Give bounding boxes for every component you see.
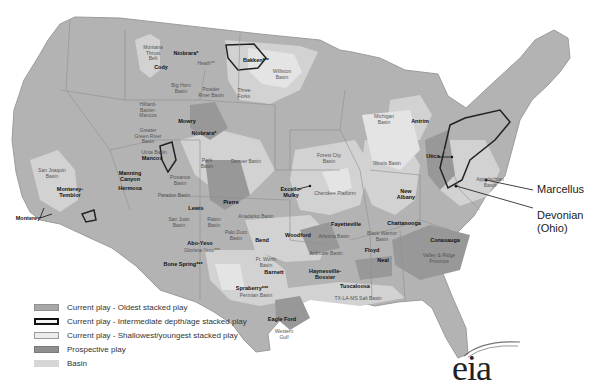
- legend-label: Current play - Intermediate depth/age st…: [67, 317, 247, 326]
- legend-label: Current play - Oldest stacked play: [67, 303, 188, 312]
- map-label: Permian Basin: [240, 293, 273, 299]
- map-label: Eagle Ford: [268, 317, 296, 323]
- map-label: Arkoma Basin: [318, 234, 349, 240]
- map-label: Powder River Basin: [198, 87, 224, 98]
- map-label: Utica: [426, 154, 439, 160]
- map-label: Raton Basin: [207, 217, 220, 228]
- map-label: Monterey: [16, 216, 40, 222]
- map-label: Cherokee Platform: [314, 191, 356, 197]
- map-label: Bone Spring***: [163, 262, 202, 268]
- map-label: Three Forks: [237, 88, 250, 99]
- map-label: Woodford: [285, 233, 311, 239]
- map-label: San Juan Basin: [168, 217, 189, 228]
- legend-item-oldest: Current play - Oldest stacked play: [34, 300, 247, 314]
- map-label: Illinois Basin: [373, 161, 401, 167]
- map-label: TX-LA-MS Salt Basin: [334, 296, 381, 302]
- legend-item-prospective: Prospective play: [34, 342, 247, 356]
- map-label: Abo-Yeso: [187, 241, 212, 247]
- map-label: Neal: [377, 258, 389, 264]
- legend-swatch: [34, 318, 59, 325]
- legend-item-intermediate: Current play - Intermediate depth/age st…: [34, 314, 247, 328]
- map-label: Hermosa: [118, 186, 142, 192]
- map-label: Mowry: [178, 119, 195, 125]
- legend-label: Current play - Shallowest/youngest stack…: [67, 331, 238, 340]
- map-label: Niobrara*: [174, 51, 199, 57]
- map-label: Monterey- Temblor: [57, 187, 83, 198]
- map-label: New Albany: [397, 189, 415, 200]
- map-label: Anadarko Basin: [238, 214, 273, 220]
- eia-logo: eia: [452, 347, 491, 389]
- map-label: Palo Duro Basin: [225, 230, 247, 241]
- map-label: Big Horn Basin: [171, 83, 190, 94]
- map-label: Mancos: [142, 156, 162, 162]
- map-label: Lewis: [188, 206, 203, 212]
- legend-swatch: [34, 360, 59, 367]
- legend-swatch: [34, 304, 59, 311]
- map-label: Barnett: [264, 270, 283, 276]
- legend-swatch: [34, 332, 59, 339]
- map-legend: Current play - Oldest stacked play Curre…: [34, 300, 247, 370]
- map-label: Piceance Basin: [170, 175, 191, 186]
- map-label: Black Warrior Basin: [367, 231, 397, 242]
- legend-item-shallowest: Current play - Shallowest/youngest stack…: [34, 328, 247, 342]
- map-label: Antrim: [411, 119, 429, 125]
- map-label: Niobrara*: [192, 131, 217, 137]
- map-label: Ft. Worth Basin: [256, 257, 276, 268]
- map-label: Hilliard- Baxter- Mancos: [139, 102, 157, 119]
- map-label: Chattanooga: [387, 221, 421, 227]
- callout-label: Marcellus: [537, 183, 584, 196]
- legend-swatch: [34, 346, 59, 353]
- map-label: San Joaquin Basin: [38, 168, 66, 179]
- map-label: Forest City Basin: [317, 153, 341, 164]
- map-label: Montana Thrust Belt: [143, 45, 162, 62]
- map-label: Manning Canyon: [119, 171, 142, 182]
- map-label: Bend: [255, 238, 269, 244]
- map-label: Appalachian Basin: [476, 177, 504, 188]
- map-label: Fayetteville: [331, 222, 361, 228]
- map-label: Paradox Basin: [158, 193, 191, 199]
- legend-label: Basin: [67, 359, 87, 368]
- map-label: Floyd: [365, 248, 380, 254]
- map-label: Greater Green River Basin: [135, 128, 162, 145]
- map-label: Excello- Mulky: [280, 187, 301, 198]
- map-label: Glorieta-Yeso***: [184, 248, 220, 254]
- legend-label: Prospective play: [67, 345, 126, 354]
- map-label: Park Basin: [201, 158, 214, 169]
- map-label: Spraberry***: [236, 286, 268, 292]
- map-label: Tuscaloosa: [340, 284, 370, 290]
- map-label: Haynesville- Bossier: [309, 269, 341, 280]
- map-label: Pierre: [223, 200, 239, 206]
- callout-label: Devonian (Ohio): [537, 209, 583, 235]
- map-label: Bakken***: [243, 58, 269, 64]
- map-label: Heath**: [197, 61, 214, 67]
- map-label: Conasauga: [430, 238, 460, 244]
- legend-item-basin: Basin: [34, 356, 247, 370]
- map-label: Michigan Basin: [374, 114, 394, 125]
- map-label: Western Gulf: [275, 329, 294, 340]
- map-label: Cody: [154, 65, 168, 71]
- map-label: Valley & Ridge Province: [423, 253, 455, 264]
- map-label: Denver Basin: [231, 159, 261, 165]
- map-label: Ardmore Basin: [309, 251, 342, 257]
- map-label: Williston Basin: [273, 69, 292, 80]
